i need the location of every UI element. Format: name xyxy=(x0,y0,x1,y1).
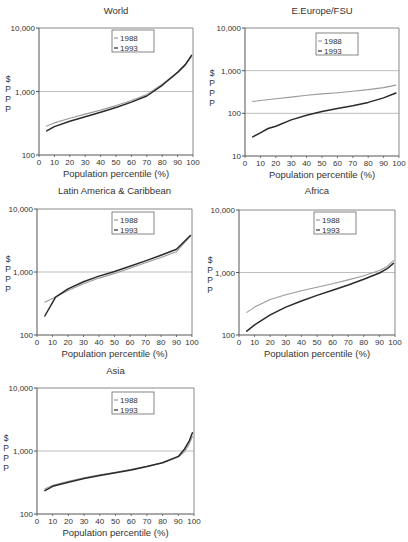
chart-svg: E.Europe/FSU101001,00010,000010203040506… xyxy=(204,0,408,180)
x-tick-label: 20 xyxy=(64,517,73,526)
legend-label: 1993 xyxy=(324,47,342,56)
y-axis-label: $PPP xyxy=(5,254,11,294)
x-tick-label: 20 xyxy=(64,338,73,347)
x-tick-label: 10 xyxy=(48,338,57,347)
x-tick-label: 40 xyxy=(297,338,306,347)
svg-text:P: P xyxy=(5,94,11,104)
x-tick-label: 0 xyxy=(35,338,40,347)
svg-text:P: P xyxy=(3,453,9,463)
svg-text:P: P xyxy=(5,264,11,274)
y-tick-label: 1,000 xyxy=(221,67,242,76)
y-tick-label: 10,000 xyxy=(9,205,34,214)
x-tick-label: 80 xyxy=(157,338,166,347)
series-line-1988 xyxy=(253,85,396,101)
x-tick-label: 60 xyxy=(333,159,342,168)
x-tick-label: 60 xyxy=(328,338,337,347)
svg-text:$: $ xyxy=(6,254,11,264)
x-tick-label: 60 xyxy=(127,517,136,526)
x-tick-label: 90 xyxy=(173,158,182,167)
y-tick-label: 100 xyxy=(20,331,34,340)
svg-text:$: $ xyxy=(4,433,9,443)
y-tick-label: 1,000 xyxy=(13,268,34,277)
x-tick-label: 90 xyxy=(172,338,181,347)
legend-label: 1988 xyxy=(120,396,138,405)
chart-svg: Africa1001,00010,00001020304050607080901… xyxy=(204,180,408,360)
legend-label: 1988 xyxy=(324,37,342,46)
chart-eeurope-fsu: E.Europe/FSU101001,00010,000010203040506… xyxy=(204,0,408,180)
chart-world: World1001,00010,000010203040506070809010… xyxy=(0,0,204,180)
y-axis-label: $PPP xyxy=(209,68,215,108)
series-line-1993 xyxy=(47,55,192,130)
x-tick-label: 40 xyxy=(95,517,104,526)
series-line-1988 xyxy=(247,261,394,313)
x-tick-label: 60 xyxy=(127,158,136,167)
y-tick-label: 10,000 xyxy=(11,24,36,33)
chart-title: Africa xyxy=(305,185,330,196)
x-tick-label: 20 xyxy=(271,159,280,168)
legend-label: 1993 xyxy=(322,226,340,235)
x-tick-label: 100 xyxy=(388,338,402,347)
series-line-1988 xyxy=(45,236,191,302)
series-line-1993 xyxy=(45,433,193,491)
y-tick-label: 10,000 xyxy=(217,24,242,33)
x-tick-label: 70 xyxy=(141,338,150,347)
svg-text:P: P xyxy=(209,78,215,88)
x-tick-label: 70 xyxy=(142,158,151,167)
x-tick-label: 0 xyxy=(243,159,248,168)
x-tick-label: 60 xyxy=(126,338,135,347)
chart-title: Asia xyxy=(106,365,125,376)
chart-title: World xyxy=(104,5,129,16)
x-tick-label: 50 xyxy=(111,517,120,526)
x-tick-label: 50 xyxy=(110,338,119,347)
chart-latin-america-caribbean: Latin America & Caribbean1001,00010,0000… xyxy=(0,180,204,360)
svg-text:P: P xyxy=(5,84,11,94)
series-line-1993 xyxy=(45,236,191,317)
chart-svg: World1001,00010,000010203040506070809010… xyxy=(0,0,204,180)
legend: 19881993 xyxy=(316,33,358,56)
svg-text:P: P xyxy=(5,104,11,114)
x-tick-label: 30 xyxy=(79,338,88,347)
x-tick-label: 50 xyxy=(112,158,121,167)
svg-text:P: P xyxy=(5,284,11,294)
legend-label: 1988 xyxy=(322,216,340,225)
svg-text:P: P xyxy=(207,265,213,275)
series-line-1988 xyxy=(45,437,193,489)
x-tick-label: 10 xyxy=(50,158,59,167)
y-tick-label: 100 xyxy=(228,109,242,118)
y-axis-label: $PPP xyxy=(207,255,213,295)
x-tick-label: 80 xyxy=(364,159,373,168)
y-tick-label: 10,000 xyxy=(9,384,34,393)
y-tick-label: 10,000 xyxy=(211,206,236,215)
x-tick-label: 100 xyxy=(187,517,201,526)
x-tick-label: 40 xyxy=(95,338,104,347)
x-axis-label: Population percentile (%) xyxy=(61,348,167,359)
svg-text:P: P xyxy=(209,98,215,108)
legend: 19881993 xyxy=(112,30,154,53)
y-tick-label: 10 xyxy=(232,152,241,161)
chart-title: E.Europe/FSU xyxy=(291,5,352,16)
chart-svg: Asia1001,00010,0000102030405060708090100… xyxy=(0,360,204,542)
x-tick-label: 30 xyxy=(281,338,290,347)
chart-svg: Latin America & Caribbean1001,00010,0000… xyxy=(0,180,204,360)
x-tick-label: 80 xyxy=(158,158,167,167)
svg-text:P: P xyxy=(207,275,213,285)
x-tick-label: 0 xyxy=(37,158,42,167)
svg-text:P: P xyxy=(5,274,11,284)
x-axis-label: Population percentile (%) xyxy=(264,348,370,359)
x-tick-label: 0 xyxy=(35,517,40,526)
svg-text:$: $ xyxy=(210,68,215,78)
x-tick-label: 10 xyxy=(48,517,57,526)
x-tick-label: 70 xyxy=(344,338,353,347)
chart-title: Latin America & Caribbean xyxy=(58,185,171,196)
y-tick-label: 1,000 xyxy=(215,269,236,278)
legend-label: 1993 xyxy=(120,226,138,235)
legend-label: 1988 xyxy=(120,34,138,43)
svg-text:P: P xyxy=(3,463,9,473)
legend-label: 1993 xyxy=(120,406,138,415)
x-tick-label: 90 xyxy=(379,159,388,168)
y-tick-label: 100 xyxy=(222,331,236,340)
x-tick-label: 90 xyxy=(174,517,183,526)
x-tick-label: 100 xyxy=(186,158,200,167)
x-axis-label: Population percentile (%) xyxy=(63,168,169,179)
svg-text:P: P xyxy=(209,88,215,98)
